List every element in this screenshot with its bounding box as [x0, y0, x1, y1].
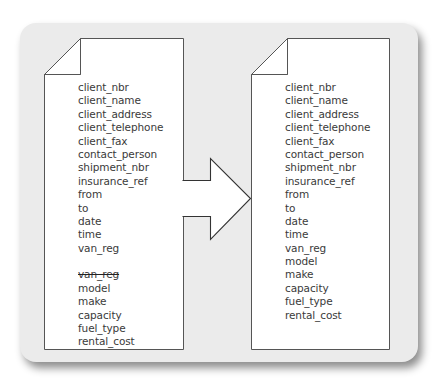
field-item: client_name — [285, 94, 370, 107]
field-item: rental_cost — [285, 309, 370, 322]
field-item: fuel_type — [285, 295, 370, 308]
field-item: contact_person — [78, 148, 163, 161]
field-item: capacity — [285, 282, 370, 295]
field-item: shipment_nbr — [78, 161, 163, 174]
field-item: client_name — [78, 94, 163, 107]
field-item: contact_person — [285, 148, 370, 161]
field-item: make — [285, 268, 370, 281]
field-item: insurance_ref — [78, 175, 163, 188]
field-item: van_reg — [78, 242, 163, 255]
field-spacer — [78, 255, 163, 268]
field-item: shipment_nbr — [285, 161, 370, 174]
right-arrow-icon — [181, 155, 253, 243]
left-document: client_nbrclient_nameclient_addressclien… — [44, 38, 184, 350]
field-item: from — [78, 188, 163, 201]
field-item: capacity — [78, 309, 163, 322]
field-item: date — [285, 215, 370, 228]
field-item: client_nbr — [78, 81, 163, 94]
field-item: to — [285, 202, 370, 215]
field-item: make — [78, 295, 163, 308]
field-item: van_reg — [285, 242, 370, 255]
field-item: insurance_ref — [285, 175, 370, 188]
right-document: client_nbrclient_nameclient_addressclien… — [251, 38, 391, 350]
field-item: client_fax — [285, 135, 370, 148]
right-field-list: client_nbrclient_nameclient_addressclien… — [285, 81, 370, 322]
field-item: client_telephone — [285, 121, 370, 134]
field-item: client_fax — [78, 135, 163, 148]
left-field-list: client_nbrclient_nameclient_addressclien… — [78, 81, 163, 349]
field-item: from — [285, 188, 370, 201]
field-item: client_nbr — [285, 81, 370, 94]
field-item: time — [78, 228, 163, 241]
field-item: rental_cost — [78, 335, 163, 348]
field-item: model — [78, 282, 163, 295]
field-item: fuel_type — [78, 322, 163, 335]
field-item: date — [78, 215, 163, 228]
field-item: model — [285, 255, 370, 268]
field-item: to — [78, 202, 163, 215]
field-item: client_address — [285, 108, 370, 121]
field-item: client_address — [78, 108, 163, 121]
field-item: client_telephone — [78, 121, 163, 134]
field-item-removed: van_reg — [78, 268, 163, 281]
field-item: time — [285, 228, 370, 241]
